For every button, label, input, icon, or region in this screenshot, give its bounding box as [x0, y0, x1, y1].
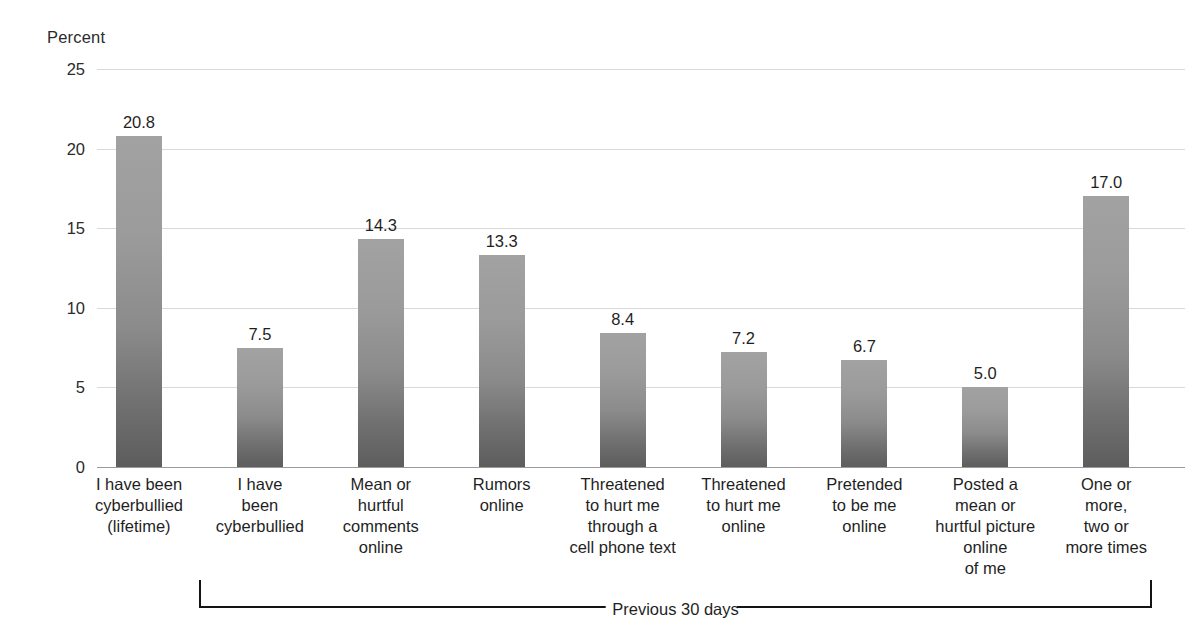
- x-category-label-line: Rumors: [438, 474, 566, 495]
- y-tick-20: 20: [0, 139, 85, 158]
- x-category-label-line: Threatened: [559, 474, 687, 495]
- x-category-label-line: through a: [559, 516, 687, 537]
- x-category-label-line: Mean or: [317, 474, 445, 495]
- x-category-label-line: Posted a: [921, 474, 1049, 495]
- bar[interactable]: [1083, 196, 1129, 467]
- x-category-label: Posted amean orhurtful pictureonlineof m…: [921, 474, 1049, 579]
- bracket-line-left: [199, 606, 614, 608]
- x-category-label-line: comments: [317, 516, 445, 537]
- x-category-label: One ormore,two ormore times: [1042, 474, 1170, 558]
- y-tick-25: 25: [0, 60, 85, 79]
- x-category-label-line: cell phone text: [559, 537, 687, 558]
- bar[interactable]: [116, 136, 162, 467]
- bar[interactable]: [721, 352, 767, 467]
- bar-chart: Percent 25 20 15 10 5 0 20.87.514.313.38…: [0, 0, 1200, 638]
- bar-value-label: 20.8: [123, 113, 155, 132]
- y-axis-tick-labels: 25 20 15 10 5 0: [0, 69, 85, 467]
- x-category-label-line: online: [317, 537, 445, 558]
- x-category-label-line: to hurt me: [559, 495, 687, 516]
- y-tick-0: 0: [0, 458, 85, 477]
- bar-value-label: 8.4: [611, 310, 634, 329]
- bar-value-label: 5.0: [974, 364, 997, 383]
- x-category-label-line: of me: [921, 558, 1049, 579]
- y-tick-10: 10: [0, 298, 85, 317]
- x-category-label-line: to be me: [800, 495, 928, 516]
- x-category-label-line: online: [921, 537, 1049, 558]
- x-category-label-line: cyberbullied: [196, 516, 324, 537]
- x-category-label: Mean orhurtfulcommentsonline: [317, 474, 445, 558]
- x-category-label-line: to hurt me: [680, 495, 808, 516]
- bracket-line-right: [737, 606, 1152, 608]
- x-category-label-line: online: [438, 495, 566, 516]
- x-category-label-line: I have: [196, 474, 324, 495]
- bar-value-label: 13.3: [486, 232, 518, 251]
- x-category-label: Threatenedto hurt meonline: [680, 474, 808, 537]
- x-category-label-line: Pretended: [800, 474, 928, 495]
- bar[interactable]: [358, 239, 404, 467]
- x-category-label-line: cyberbullied: [75, 495, 203, 516]
- previous-30-days-bracket: Previous 30 days: [199, 580, 1152, 608]
- x-category-label: Threatenedto hurt methrough acell phone …: [559, 474, 687, 558]
- x-category-label-line: hurtful picture: [921, 516, 1049, 537]
- x-category-label: I havebeencyberbullied: [196, 474, 324, 537]
- bar-value-label: 6.7: [853, 337, 876, 356]
- x-category-label-line: been: [196, 495, 324, 516]
- bar-value-label: 14.3: [365, 216, 397, 235]
- x-category-label-line: more times: [1042, 537, 1170, 558]
- bar[interactable]: [479, 255, 525, 467]
- bar[interactable]: [237, 348, 283, 467]
- x-category-label-line: online: [680, 516, 808, 537]
- x-axis-category-labels: I have beencyberbullied(lifetime)I haveb…: [97, 474, 1185, 579]
- x-category-label: Pretendedto be meonline: [800, 474, 928, 537]
- x-category-label-line: (lifetime): [75, 516, 203, 537]
- axis-baseline: [97, 467, 1185, 468]
- x-category-label-line: more,: [1042, 495, 1170, 516]
- bar-value-label: 7.5: [248, 325, 271, 344]
- y-axis-title: Percent: [47, 28, 105, 47]
- x-category-label-line: I have been: [75, 474, 203, 495]
- bracket-left-tick: [199, 580, 201, 607]
- x-category-label: I have beencyberbullied(lifetime): [75, 474, 203, 537]
- bar-series: 20.87.514.313.38.47.26.75.017.0: [97, 69, 1185, 467]
- x-category-label-line: online: [800, 516, 928, 537]
- bar[interactable]: [962, 387, 1008, 467]
- y-tick-5: 5: [0, 378, 85, 397]
- y-tick-15: 15: [0, 219, 85, 238]
- bar-value-label: 17.0: [1090, 173, 1122, 192]
- bar-value-label: 7.2: [732, 329, 755, 348]
- x-category-label-line: mean or: [921, 495, 1049, 516]
- bracket-right-tick: [1150, 580, 1152, 607]
- bar[interactable]: [600, 333, 646, 467]
- x-category-label: Rumorsonline: [438, 474, 566, 516]
- x-category-label-line: hurtful: [317, 495, 445, 516]
- x-category-label-line: two or: [1042, 516, 1170, 537]
- x-category-label-line: Threatened: [680, 474, 808, 495]
- bracket-label: Previous 30 days: [605, 600, 746, 619]
- bar[interactable]: [841, 360, 887, 467]
- x-category-label-line: One or: [1042, 474, 1170, 495]
